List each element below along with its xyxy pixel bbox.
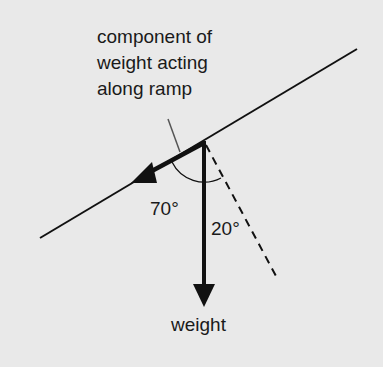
ramp-force-diagram: component of weight acting along ramp 70…	[0, 0, 383, 367]
caption-line-3: along ramp	[97, 76, 287, 102]
weight-label: weight	[171, 314, 226, 336]
angle-arc-70	[172, 162, 221, 182]
caption-leader-line	[168, 119, 180, 152]
normal-dashed-line	[206, 145, 277, 278]
weight-arrowhead-icon	[193, 284, 215, 307]
angle-70-label: 70°	[150, 198, 179, 220]
caption-line-2: weight acting	[97, 50, 287, 76]
ramp-component-arrow-shaft	[150, 143, 204, 172]
ramp-component-arrowhead-icon	[131, 162, 157, 183]
caption-line-1: component of	[97, 24, 287, 50]
ramp-component-caption: component of weight acting along ramp	[97, 24, 287, 102]
angle-20-label: 20°	[211, 218, 240, 240]
